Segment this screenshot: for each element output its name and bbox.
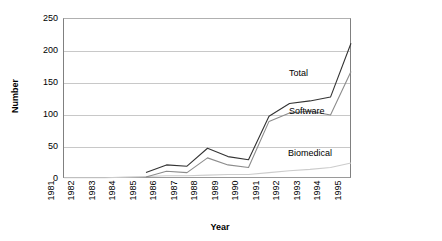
x-tick-1995: 1995: [332, 182, 378, 194]
series-line-software: [146, 71, 351, 177]
x-axis-title: Year: [178, 222, 262, 232]
y-axis-title-text: Number: [10, 56, 20, 136]
plot-area: Total Software Biomedical: [63, 18, 351, 178]
series-label-total: Total: [289, 69, 308, 78]
series-line-biomedical: [64, 163, 351, 178]
series-label-software: Software: [289, 107, 325, 116]
y-tick-150: 150: [28, 78, 58, 87]
y-tick-100: 100: [28, 110, 58, 119]
y-tick-50: 50: [28, 142, 58, 151]
y-tick-250: 250: [28, 14, 58, 23]
chart-container: Number 250 200 150 100 50 0 Total Softwa…: [0, 0, 442, 241]
y-tick-200: 200: [28, 46, 58, 55]
series-label-biomedical: Biomedical: [288, 149, 332, 158]
y-axis-title: Number: [8, 58, 22, 138]
